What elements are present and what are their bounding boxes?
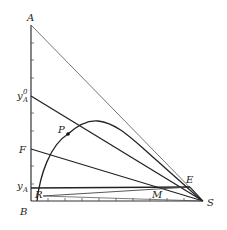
label-P: P bbox=[57, 124, 65, 135]
label-yA-sub: A bbox=[22, 186, 28, 194]
label-M: M bbox=[151, 189, 163, 200]
label-yA0-sub: A bbox=[22, 96, 28, 104]
line-yA0-S bbox=[31, 96, 203, 201]
label-R: R bbox=[34, 189, 43, 200]
label-B: B bbox=[19, 206, 27, 217]
label-E: E bbox=[185, 174, 194, 185]
point-P bbox=[66, 132, 70, 136]
ternary-diagram: A B S F P R M E y A 0 y A bbox=[0, 0, 227, 230]
label-yA: y bbox=[16, 180, 23, 191]
label-yA0: y bbox=[16, 90, 23, 101]
label-yA0-sup: 0 bbox=[23, 88, 28, 96]
label-A: A bbox=[26, 12, 34, 23]
line-yA-E bbox=[31, 187, 190, 188]
label-F: F bbox=[18, 144, 27, 155]
label-S: S bbox=[207, 197, 214, 208]
line-R-S bbox=[43, 196, 203, 201]
